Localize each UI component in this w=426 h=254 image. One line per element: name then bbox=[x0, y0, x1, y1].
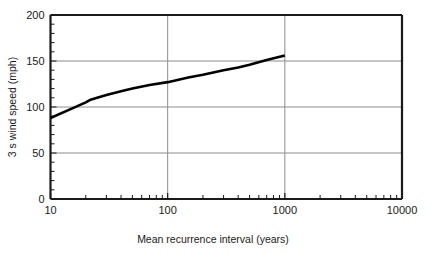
y-tick-label: 200 bbox=[26, 9, 44, 21]
wind-speed-recurrence-chart: 10100100010000 050100150200 Mean recurre… bbox=[0, 0, 426, 254]
x-tick-label: 100 bbox=[158, 204, 176, 216]
x-tick-label: 10 bbox=[44, 204, 56, 216]
y-tick-label: 100 bbox=[26, 101, 44, 113]
x-tick-label: 10000 bbox=[387, 204, 418, 216]
y-tick-label: 50 bbox=[32, 147, 44, 159]
y-tick-label: 0 bbox=[38, 193, 44, 205]
chart-background bbox=[0, 0, 426, 254]
y-axis-title: 3 s wind speed (mph) bbox=[6, 57, 18, 157]
x-axis-title: Mean recurrence interval (years) bbox=[137, 233, 289, 245]
y-tick-label: 150 bbox=[26, 55, 44, 67]
x-tick-label: 1000 bbox=[273, 204, 297, 216]
chart-figure: 10100100010000 050100150200 Mean recurre… bbox=[0, 0, 426, 254]
